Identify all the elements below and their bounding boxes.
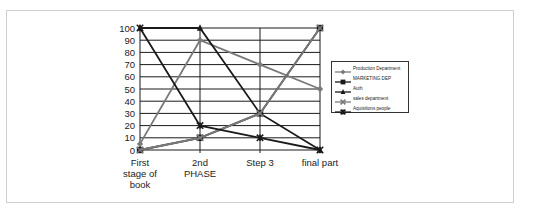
x-marker-icon [334, 93, 352, 103]
diamond-marker-icon [334, 63, 352, 73]
legend-label: MARKETING DEP [353, 76, 391, 81]
y-tick-label: 50 [124, 84, 135, 95]
legend-item-sales: sales department [334, 93, 410, 103]
x-tick-label: 2nd [192, 157, 208, 168]
triangle-marker-icon [334, 83, 352, 93]
x-tick-label: stage of [123, 168, 157, 179]
star-marker-icon [334, 103, 352, 113]
y-tick-label: 80 [124, 47, 135, 58]
square-marker-icon [334, 73, 352, 83]
y-tick-label: 0 [130, 145, 135, 156]
legend-label: Aquisitions people [353, 106, 390, 111]
line-chart: 0102030405060708090100Firststage ofbook2… [0, 0, 541, 210]
y-tick-label: 70 [124, 59, 135, 70]
legend-item-aquisitions: Aquisitions people [334, 103, 410, 113]
legend-label: sales department [353, 96, 388, 101]
y-tick-label: 100 [119, 23, 135, 34]
legend-item-marketing: MARKETING DEP [334, 73, 410, 83]
series-production-department [137, 37, 323, 147]
x-tick-label: final part [302, 157, 339, 168]
legend-item-production: Production Department [334, 63, 410, 73]
y-tick-label: 40 [124, 96, 135, 107]
legend-item-auth: Auth [334, 83, 410, 93]
y-tick-label: 20 [124, 120, 135, 131]
legend-label: Auth [353, 86, 362, 91]
x-tick-label: book [130, 179, 151, 190]
legend: Production Department MARKETING DEP Auth… [331, 61, 409, 113]
x-tick-label: First [131, 157, 150, 168]
y-tick-label: 10 [124, 132, 135, 143]
x-tick-label: Step 3 [246, 157, 273, 168]
y-tick-label: 60 [124, 71, 135, 82]
y-tick-label: 30 [124, 108, 135, 119]
x-tick-label: PHASE [184, 168, 216, 179]
y-tick-label: 90 [124, 35, 135, 46]
legend-label: Production Department [353, 66, 400, 71]
